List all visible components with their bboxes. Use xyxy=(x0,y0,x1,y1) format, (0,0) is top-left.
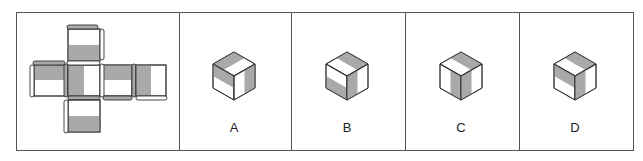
cube-net xyxy=(30,25,167,133)
option-c-label: C xyxy=(441,120,481,135)
net-face-top xyxy=(67,25,104,61)
option-c-cube[interactable] xyxy=(440,52,482,100)
net-face-left xyxy=(30,61,68,97)
option-d-label: D xyxy=(555,120,595,135)
option-b-cube[interactable] xyxy=(326,52,368,100)
option-d-cube[interactable] xyxy=(554,52,596,100)
option-a-cube[interactable] xyxy=(213,52,255,100)
puzzle-figure xyxy=(0,0,643,161)
option-a-label: A xyxy=(214,120,254,135)
net-face-bottom xyxy=(64,100,100,133)
net-face-right xyxy=(100,64,136,100)
net-face-center xyxy=(67,61,100,100)
net-face-far-right xyxy=(136,65,167,100)
option-b-label: B xyxy=(327,120,367,135)
